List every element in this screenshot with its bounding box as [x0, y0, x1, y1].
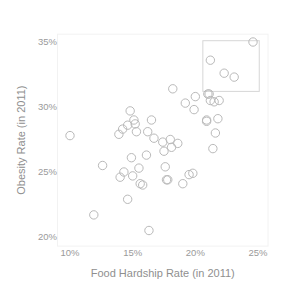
data-point [249, 38, 257, 46]
data-point [144, 128, 152, 136]
data-point [90, 211, 98, 219]
data-point [66, 131, 74, 139]
x-tick-label: 10% [60, 247, 80, 258]
chart-canvas: 10%15%20%25% 20%25%30%35% Food Hardship … [0, 0, 296, 289]
data-point [191, 92, 199, 100]
data-points-layer [66, 38, 257, 235]
data-point [181, 99, 189, 107]
data-point [147, 116, 155, 124]
x-tick-label: 15% [123, 247, 143, 258]
y-tick-label: 25% [38, 166, 58, 177]
data-point [142, 151, 150, 159]
data-point [220, 69, 228, 77]
y-axis-tick-labels: 20%25%30%35% [38, 36, 58, 242]
data-point [215, 96, 223, 104]
data-point [211, 129, 219, 137]
y-tick-label: 30% [38, 101, 58, 112]
data-point [135, 164, 143, 172]
x-axis-tick-labels: 10%15%20%25% [60, 247, 268, 258]
plot-area-frame [57, 34, 268, 246]
data-point [145, 226, 153, 234]
data-point [209, 144, 217, 152]
x-axis-title: Food Hardship Rate (in 2011) [91, 267, 235, 279]
data-point [206, 56, 214, 64]
data-point [230, 73, 238, 81]
x-tick-label: 20% [186, 247, 206, 258]
data-point [169, 85, 177, 93]
highlight-annotation-layer [203, 41, 259, 92]
data-point [126, 107, 134, 115]
x-tick-label: 25% [248, 247, 268, 258]
data-point [179, 180, 187, 188]
y-axis-title: Obesity Rate (in 2011) [15, 86, 27, 195]
data-point [214, 115, 222, 123]
data-point [98, 161, 106, 169]
data-point [128, 172, 136, 180]
data-point [190, 105, 198, 113]
data-point [174, 139, 182, 147]
data-point [123, 195, 131, 203]
data-point [167, 143, 175, 151]
scatter-chart: 10%15%20%25% 20%25%30%35% Food Hardship … [0, 0, 296, 289]
highlight-box [203, 41, 259, 92]
data-point [150, 134, 158, 142]
data-point [127, 154, 135, 162]
data-point [138, 181, 146, 189]
y-tick-label: 35% [38, 36, 58, 47]
y-tick-label: 20% [38, 231, 58, 242]
data-point [161, 163, 169, 171]
data-point [132, 128, 140, 136]
